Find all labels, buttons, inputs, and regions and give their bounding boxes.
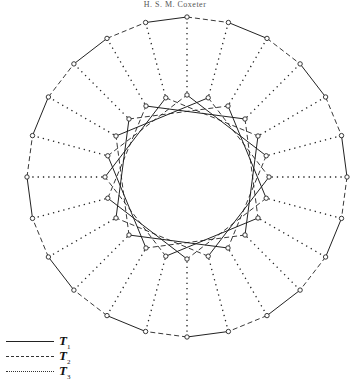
t3-edge — [228, 248, 267, 316]
t3-edge — [266, 136, 341, 156]
vertex-marker — [25, 175, 29, 179]
t1-edge — [326, 218, 342, 257]
t1-edge — [27, 177, 33, 218]
vertex-marker — [164, 254, 168, 258]
t1-edge — [342, 136, 348, 177]
t2-edge — [146, 332, 187, 338]
legend-item-t2: T2 — [4, 349, 114, 364]
t3-edge — [33, 136, 108, 156]
t3-edge — [107, 38, 146, 106]
vertex-marker — [264, 154, 268, 158]
dotted-line-swatch — [6, 371, 54, 372]
t3-edge — [74, 235, 129, 290]
legend: T1 T2 T3 — [4, 334, 114, 379]
vertex-marker — [144, 246, 148, 250]
t2-edge — [228, 316, 267, 332]
t2-edge — [33, 218, 49, 257]
t1-edge — [267, 290, 300, 316]
t3-edge — [228, 38, 267, 106]
vertex-marker — [323, 95, 327, 99]
vertex-marker — [114, 134, 118, 138]
vertex-marker — [256, 216, 260, 220]
vertex-marker — [106, 154, 110, 158]
t3-edge — [74, 64, 129, 119]
vertex-marker — [226, 104, 230, 108]
t1-edge — [300, 64, 326, 97]
t3-edge — [208, 256, 228, 331]
vertex-marker — [114, 216, 118, 220]
vertex-marker — [206, 254, 210, 258]
solid-line-swatch — [6, 341, 54, 342]
vertex-marker — [46, 95, 50, 99]
t1-edge — [48, 257, 74, 290]
legend-item-t3: T3 — [4, 364, 114, 379]
t3-edge — [146, 256, 166, 331]
vertex-marker — [103, 175, 107, 179]
vertex-marker — [144, 104, 148, 108]
vertex-marker — [185, 15, 189, 19]
vertex-marker — [30, 216, 34, 220]
vertex-marker — [72, 62, 76, 66]
vertex-marker — [105, 313, 109, 317]
t2-edge — [74, 290, 107, 316]
t1-edge — [74, 38, 107, 64]
vertex-marker — [267, 175, 271, 179]
vertex-marker — [106, 196, 110, 200]
t2-edge — [300, 257, 326, 290]
vertex-marker — [185, 335, 189, 339]
t2-edge — [326, 97, 342, 136]
t1-edge — [107, 316, 146, 332]
dashed-line-swatch — [6, 356, 54, 357]
vertex-marker — [256, 134, 260, 138]
vertex-marker — [339, 133, 343, 137]
vertex-marker — [265, 36, 269, 40]
t2-edge — [187, 17, 228, 23]
vertex-marker — [185, 93, 189, 97]
vertex-marker — [265, 313, 269, 317]
vertex-marker — [185, 257, 189, 261]
t3-edge — [107, 248, 146, 316]
t3-edge — [48, 97, 116, 136]
vertex-marker — [226, 329, 230, 333]
vertex-marker — [298, 62, 302, 66]
vertex-marker — [339, 216, 343, 220]
t3-edge — [208, 23, 228, 98]
t3-edge — [33, 198, 108, 218]
vertex-marker — [206, 96, 210, 100]
t3-edge — [245, 64, 300, 119]
vertex-marker — [72, 288, 76, 292]
vertex-marker — [127, 233, 131, 237]
vertex-markers — [25, 15, 349, 339]
t2-edge — [267, 38, 300, 64]
vertex-marker — [105, 36, 109, 40]
t3-edge — [146, 23, 166, 98]
t3-edge — [48, 218, 116, 257]
t2-edge — [342, 177, 348, 218]
vertex-marker — [264, 196, 268, 200]
vertex-marker — [226, 20, 230, 24]
legend-item-t1: T1 — [4, 334, 114, 349]
vertex-marker — [143, 20, 147, 24]
t3-edge — [266, 198, 341, 218]
t1-edge — [228, 23, 267, 39]
t2-edge — [48, 64, 74, 97]
vertex-marker — [243, 233, 247, 237]
vertex-marker — [226, 246, 230, 250]
t2-edge — [27, 136, 33, 177]
t1-edge — [33, 97, 49, 136]
vertex-marker — [323, 255, 327, 259]
t3-edge — [245, 235, 300, 290]
t1-edge — [146, 17, 187, 23]
t1-edge — [187, 332, 228, 338]
t2-edge — [107, 23, 146, 39]
vertex-marker — [298, 288, 302, 292]
t3-edge — [258, 218, 326, 257]
vertex-marker — [30, 133, 34, 137]
legend-label-t3: T3 — [59, 363, 70, 381]
vertex-marker — [46, 255, 50, 259]
vertex-marker — [143, 329, 147, 333]
vertex-marker — [243, 117, 247, 121]
vertex-marker — [345, 175, 349, 179]
vertex-marker — [164, 96, 168, 100]
